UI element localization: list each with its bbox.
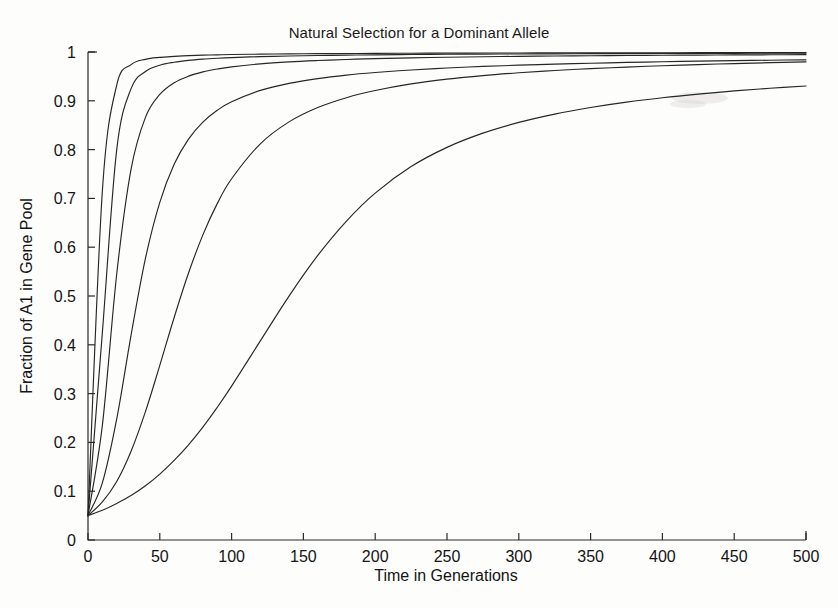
chart-page: Natural Selection for a Dominant Allele …	[0, 0, 838, 608]
x-tick-label: 0	[84, 548, 93, 565]
y-tick-label: 0.1	[54, 483, 76, 500]
x-tick-label: 450	[721, 548, 748, 565]
data-series-line	[88, 55, 806, 516]
y-tick-labels: 00.10.20.30.40.50.60.70.80.91	[54, 44, 76, 549]
x-tick-label: 200	[362, 548, 389, 565]
x-tick-label: 350	[577, 548, 604, 565]
axes	[88, 52, 806, 540]
data-series-line	[88, 86, 806, 516]
y-tick-label: 0.6	[54, 239, 76, 256]
y-axis-title: Fraction of A1 in Gene Pool	[18, 198, 35, 394]
y-tick-label: 0.7	[54, 190, 76, 207]
y-tick-label: 0	[67, 532, 76, 549]
y-tick-label: 0.4	[54, 337, 76, 354]
y-tick-label: 0.2	[54, 434, 76, 451]
x-tick-label: 150	[290, 548, 317, 565]
data-series-group	[88, 53, 806, 516]
x-tick-label: 500	[793, 548, 820, 565]
y-tick-label: 0.3	[54, 386, 76, 403]
x-tick-label: 250	[434, 548, 461, 565]
data-series-line	[88, 53, 806, 515]
x-tick-label: 100	[218, 548, 245, 565]
y-tick-label: 0.8	[54, 142, 76, 159]
x-tick-label: 300	[505, 548, 532, 565]
x-tick-label: 50	[151, 548, 169, 565]
axis-spines	[88, 52, 806, 540]
y-tick-label: 0.5	[54, 288, 76, 305]
data-series-line	[88, 53, 806, 516]
x-tick-labels: 050100150200250300350400450500	[84, 548, 820, 565]
y-tick-label: 1	[67, 44, 76, 61]
x-tick-label: 400	[649, 548, 676, 565]
x-axis-title: Time in Generations	[374, 567, 517, 584]
data-series-line	[88, 60, 806, 516]
tick-marks	[88, 52, 806, 540]
y-tick-label: 0.9	[54, 93, 76, 110]
plot-area: 050100150200250300350400450500 00.10.20.…	[0, 0, 838, 608]
